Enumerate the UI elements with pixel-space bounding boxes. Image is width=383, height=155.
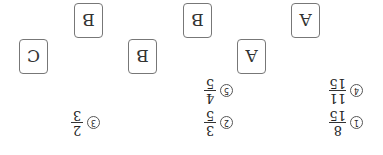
fraction: 2 3 [71,108,83,137]
card-b-3: B [74,3,103,38]
card-b-2: B [128,39,157,74]
denominator: 5 [206,76,214,90]
option-2[interactable]: 2 3 5 [204,108,233,137]
denominator: 3 [73,108,81,122]
option-1[interactable]: 1 8 15 [329,108,363,137]
fraction: 3 5 [204,108,216,137]
numerator: 8 [334,123,342,137]
option-4[interactable]: 4 11 15 [329,76,363,105]
card-a-1: A [291,3,320,38]
option-marker: 5 [220,84,233,97]
fraction: 11 15 [329,76,346,105]
denominator: 5 [206,108,214,122]
denominator: 15 [329,76,346,90]
option-5[interactable]: 5 4 5 [204,76,233,105]
option-3[interactable]: 3 2 3 [71,108,100,137]
option-marker: 1 [350,116,363,129]
question-figure: A A B B B C 1 8 15 2 3 5 3 2 3 4 11 15 [0,0,383,155]
option-marker: 4 [350,84,363,97]
numerator: 2 [73,123,81,137]
numerator: 11 [329,91,346,105]
denominator: 15 [329,108,346,122]
numerator: 3 [206,123,214,137]
numerator: 4 [206,91,214,105]
option-marker: 3 [87,116,100,129]
card-a-2: A [237,39,266,74]
card-b-1: B [183,3,212,38]
card-c: C [19,39,48,74]
fraction: 4 5 [204,76,216,105]
option-marker: 2 [220,116,233,129]
fraction: 8 15 [329,108,346,137]
